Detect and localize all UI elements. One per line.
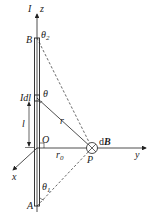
label-z-axis: z xyxy=(39,3,44,14)
x-axis xyxy=(13,148,37,170)
label-x-axis: x xyxy=(11,171,17,182)
label-theta1: θ1 xyxy=(42,181,50,194)
label-r0: r0 xyxy=(56,149,64,162)
label-theta: θ xyxy=(43,88,48,99)
label-point-B: B xyxy=(26,34,32,45)
label-dB: dB xyxy=(99,136,111,147)
db-into-page-icon xyxy=(87,143,98,154)
label-length-l: l xyxy=(22,118,25,129)
label-origin-O: O xyxy=(42,134,49,145)
biot-savart-diagram: I z B θ2 Idl θ l r O r0 P dB y x θ1 A xyxy=(0,0,152,219)
label-current: I xyxy=(27,3,32,14)
label-point-A: A xyxy=(26,200,34,211)
label-y-axis: y xyxy=(134,149,140,160)
dashed-line-A xyxy=(37,148,92,206)
label-theta2: θ2 xyxy=(41,29,50,42)
label-r: r xyxy=(60,115,64,126)
label-point-P: P xyxy=(86,154,93,165)
label-Idl: Idl xyxy=(19,92,31,103)
